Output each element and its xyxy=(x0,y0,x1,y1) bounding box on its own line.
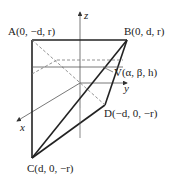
edge-bc xyxy=(32,40,127,158)
axis-label-x: x xyxy=(19,121,25,133)
label-c: C(d, 0, −r) xyxy=(27,162,74,175)
label-v: V(α, β, h) xyxy=(114,66,157,79)
label-a: A(0, −d, r) xyxy=(8,25,55,38)
x-axis xyxy=(17,83,80,121)
tetrahedron-diagram: A(0, −d, r) B(0, d, r) V(α, β, h) D(−d, … xyxy=(0,0,177,184)
axis-label-z: z xyxy=(83,9,89,21)
axis-label-y: y xyxy=(123,82,129,94)
label-d: D(−d, 0, −r) xyxy=(104,107,158,120)
v-leader xyxy=(103,67,113,72)
edge-ad-hidden xyxy=(32,40,105,105)
label-b: B(0, d, r) xyxy=(124,25,165,38)
